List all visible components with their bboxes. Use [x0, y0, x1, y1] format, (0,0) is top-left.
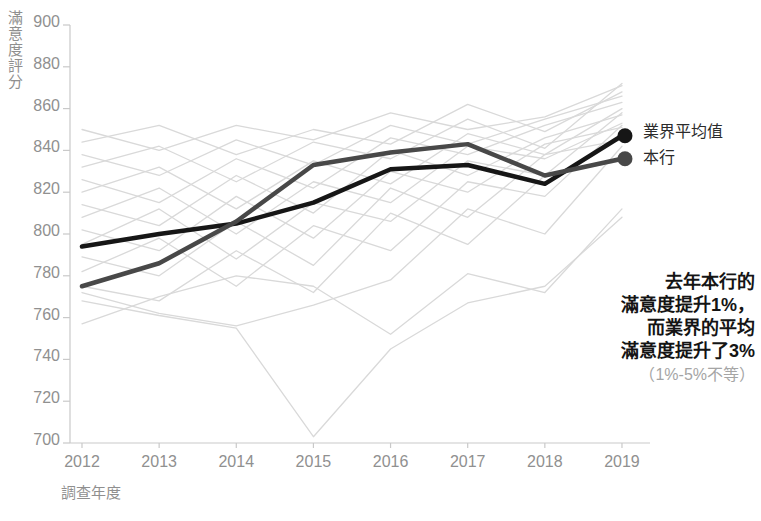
annotation-line-2: 滿意度提升1%， [621, 294, 755, 317]
x-tick-label: 2018 [527, 453, 563, 470]
y-tick-label: 780 [33, 264, 60, 281]
y-tick-label: 700 [33, 431, 60, 448]
legend-industry-average-label: 業界平均值 [643, 122, 723, 141]
annotation: 去年本行的 滿意度提升1%， 而業界的平均 滿意度提升了3% （1%-5%不等） [621, 271, 755, 386]
y-tick-label: 820 [33, 180, 60, 197]
annotation-line-4: 滿意度提升了3% [621, 340, 755, 363]
background-peer-line [82, 217, 622, 436]
x-tick-label: 2016 [373, 453, 409, 470]
annotation-line-3: 而業界的平均 [621, 317, 755, 340]
our-bank-line [82, 144, 622, 286]
background-peer-line [82, 86, 622, 151]
y-tick-label: 760 [33, 306, 60, 323]
line-chart-canvas: 9008808608408208007807607407207002012201… [0, 0, 761, 521]
y-tick-label: 840 [33, 138, 60, 155]
y-tick-label: 860 [33, 97, 60, 114]
industry-average-line [82, 136, 622, 247]
page: { "y_axis": { "title": "滿意度評分", "ticks":… [0, 0, 761, 521]
annotation-line-1: 去年本行的 [621, 271, 755, 294]
legend-our-bank-label: 本行 [643, 148, 723, 167]
y-tick-label: 800 [33, 222, 60, 239]
x-tick-label: 2019 [604, 453, 640, 470]
background-peer-line [82, 84, 622, 182]
background-peer-line [82, 115, 622, 226]
x-tick-label: 2015 [296, 453, 332, 470]
legend: 業界平均值 本行 [643, 122, 723, 167]
industry-average-endpoint-dot [617, 128, 632, 143]
satisfaction-chart: 滿意度評分 9008808608408208007807607407207002… [0, 0, 761, 521]
x-tick-label: 2014 [218, 453, 254, 470]
x-tick-label: 2012 [64, 453, 100, 470]
y-tick-label: 900 [33, 13, 60, 30]
our-bank-endpoint-dot [617, 151, 632, 166]
y-tick-label: 880 [33, 55, 60, 72]
x-tick-label: 2017 [450, 453, 486, 470]
x-tick-label: 2013 [141, 453, 177, 470]
annotation-note: （1%-5%不等） [621, 363, 755, 386]
x-axis-title: 調查年度 [61, 481, 121, 502]
y-tick-label: 740 [33, 347, 60, 364]
y-tick-label: 720 [33, 389, 60, 406]
